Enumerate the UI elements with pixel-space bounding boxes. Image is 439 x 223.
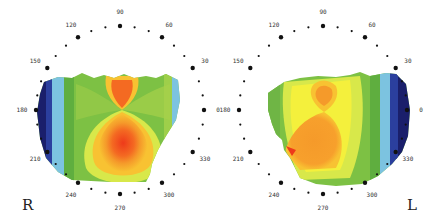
angle-label: 330 <box>402 155 413 162</box>
angle-dot <box>268 173 270 175</box>
angle-dot <box>160 35 164 39</box>
angle-dot <box>90 188 92 190</box>
angle-label: 0 <box>419 106 423 113</box>
angle-label: 60 <box>368 21 376 28</box>
left-eye-label: L <box>407 196 417 214</box>
angle-dot <box>248 66 252 70</box>
angle-dot <box>55 55 57 57</box>
angle-dot <box>307 26 309 28</box>
angle-label: 180 <box>17 106 28 113</box>
angle-dot <box>118 24 122 28</box>
angle-dot <box>394 66 398 70</box>
angle-label: 120 <box>269 21 280 28</box>
right-eye-label: R <box>22 196 34 214</box>
angle-label: 90 <box>319 8 327 15</box>
angle-dot <box>40 80 42 82</box>
angle-label: 120 <box>66 21 77 28</box>
angle-dot <box>258 163 260 165</box>
angle-dot <box>243 138 245 140</box>
angle-dot <box>160 181 164 185</box>
angle-dot <box>363 181 367 185</box>
angle-dot <box>401 138 403 140</box>
angle-label: 300 <box>367 191 378 198</box>
angle-dot <box>36 124 38 126</box>
angle-dot <box>202 94 204 96</box>
angle-dot <box>307 192 309 194</box>
angle-dot <box>76 35 80 39</box>
angle-dot <box>104 192 106 194</box>
left-eye-map <box>260 65 420 190</box>
angle-label: 270 <box>318 204 329 211</box>
angle-dot <box>40 138 42 140</box>
angle-dot <box>173 45 175 47</box>
angle-dot <box>351 30 353 32</box>
angle-dot <box>198 138 200 140</box>
angle-dot <box>134 26 136 28</box>
angle-dot <box>239 94 241 96</box>
angle-label: 180 <box>220 106 231 113</box>
angle-dot <box>376 45 378 47</box>
angle-dot <box>268 45 270 47</box>
angle-label: 240 <box>269 191 280 198</box>
angle-dot <box>376 173 378 175</box>
angle-dot <box>386 163 388 165</box>
angle-label: 210 <box>30 155 41 162</box>
angle-dot <box>321 24 325 28</box>
angle-dot <box>191 66 195 70</box>
angle-dot <box>65 173 67 175</box>
angle-dot <box>34 108 38 112</box>
topography-chart: 0306090120150180210240270300330030609012… <box>0 0 439 223</box>
angle-label: 60 <box>165 21 173 28</box>
angle-dot <box>202 124 204 126</box>
angle-dot <box>248 150 252 154</box>
angle-dot <box>45 150 49 154</box>
angle-dot <box>76 181 80 185</box>
angle-dot <box>104 26 106 28</box>
angle-label: 300 <box>164 191 175 198</box>
angle-dot <box>405 124 407 126</box>
angle-dot <box>148 188 150 190</box>
angle-dot <box>237 108 241 112</box>
angle-dot <box>279 35 283 39</box>
angle-label: 90 <box>116 8 124 15</box>
angle-dot <box>337 26 339 28</box>
angle-dot <box>55 163 57 165</box>
angle-dot <box>293 188 295 190</box>
angle-dot <box>337 192 339 194</box>
angle-dot <box>386 55 388 57</box>
angle-dot <box>293 30 295 32</box>
angle-dot <box>405 108 409 112</box>
angle-label: 210 <box>233 155 244 162</box>
angle-dot <box>321 192 325 196</box>
angle-label: 150 <box>233 57 244 64</box>
angle-dot <box>363 35 367 39</box>
angle-label: 30 <box>404 57 412 64</box>
angle-dot <box>351 188 353 190</box>
angle-dot <box>45 66 49 70</box>
angle-dot <box>173 173 175 175</box>
angle-label: 330 <box>199 155 210 162</box>
angle-dot <box>183 55 185 57</box>
angle-dot <box>202 108 206 112</box>
angle-dot <box>405 94 407 96</box>
angle-dot <box>198 80 200 82</box>
angle-label: 240 <box>66 191 77 198</box>
angle-dot <box>401 80 403 82</box>
angle-dot <box>243 80 245 82</box>
angle-label: 30 <box>201 57 209 64</box>
angle-dot <box>279 181 283 185</box>
angle-label: 270 <box>115 204 126 211</box>
angle-dot <box>191 150 195 154</box>
angle-dot <box>148 30 150 32</box>
angle-dot <box>118 192 122 196</box>
angle-dot <box>65 45 67 47</box>
angle-dot <box>36 94 38 96</box>
angle-dot <box>134 192 136 194</box>
angle-dot <box>90 30 92 32</box>
angle-dot <box>394 150 398 154</box>
angle-dot <box>239 124 241 126</box>
right-eye-map <box>30 65 192 190</box>
angle-label: 150 <box>30 57 41 64</box>
angle-dot <box>183 163 185 165</box>
angle-dot <box>258 55 260 57</box>
